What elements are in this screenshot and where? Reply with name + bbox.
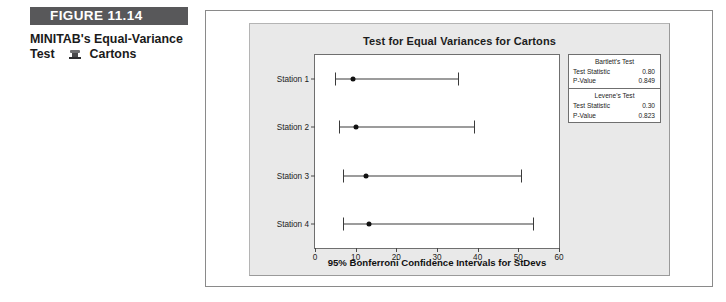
statistics-box: Bartlett's Test Test Statistic 0.80 P-Va… (568, 54, 661, 123)
bartlett-p-value-row: P-Value 0.849 (569, 76, 660, 86)
figure-frame: Test for Equal Variances for Cartons Sta… (205, 10, 713, 287)
confidence-interval-lower-cap (343, 169, 344, 182)
confidence-interval-upper-cap (458, 73, 459, 86)
x-tick-mark (559, 248, 560, 252)
degraded-glyph-icon (69, 49, 81, 59)
x-tick-mark (518, 248, 519, 252)
stdev-point-marker (367, 221, 372, 226)
confidence-interval-upper-cap (521, 169, 522, 182)
y-tick-mark (311, 223, 315, 224)
x-tick-mark (356, 248, 357, 252)
stdev-point-marker (350, 77, 355, 82)
confidence-interval-line (343, 175, 521, 176)
figure-caption-line-2-prefix: Test (30, 47, 55, 61)
x-tick-mark (315, 248, 316, 252)
y-tick-label: Station 3 (277, 171, 309, 180)
figure-caption-block: FIGURE 11.14 MINITAB's Equal-Variance Te… (30, 7, 195, 62)
chart-title: Test for Equal Variances for Cartons (250, 35, 669, 47)
x-tick-mark (396, 248, 397, 252)
plot-area: Station 1Station 2Station 3Station 40102… (314, 54, 560, 249)
figure-caption-line-2-suffix: Cartons (90, 47, 137, 61)
y-tick-mark (311, 79, 315, 80)
levene-p-value-row: P-Value 0.823 (569, 110, 660, 120)
confidence-interval-lower-cap (335, 73, 336, 86)
bartlett-test-statistic-value: 0.80 (642, 68, 655, 75)
y-tick-label: Station 1 (277, 75, 309, 84)
confidence-interval-upper-cap (533, 217, 534, 230)
confidence-interval-line (343, 223, 533, 224)
x-axis-title: 95% Bonferroni Confidence Intervals for … (314, 257, 560, 268)
levene-test-statistic-value: 0.30 (642, 102, 655, 109)
bartlett-test-block: Bartlett's Test Test Statistic 0.80 P-Va… (569, 55, 660, 88)
figure-number-label: FIGURE 11.14 (50, 8, 143, 23)
bartlett-test-statistic-label: Test Statistic (573, 68, 610, 75)
confidence-interval-lower-cap (343, 217, 344, 230)
minitab-output-panel: Test for Equal Variances for Cartons Sta… (249, 23, 670, 276)
bartlett-p-value-value: 0.849 (638, 77, 655, 84)
levene-test-statistic-label: Test Statistic (573, 102, 610, 109)
x-tick-mark (437, 248, 438, 252)
figure-caption-text: MINITAB's Equal-Variance TestCartons (30, 32, 200, 62)
confidence-interval-line (339, 127, 474, 128)
bartlett-p-value-label: P-Value (573, 77, 596, 84)
y-tick-label: Station 4 (277, 219, 309, 228)
stdev-point-marker (353, 125, 358, 130)
levene-test-title: Levene's Test (569, 89, 660, 101)
figure-header-bar: FIGURE 11.14 (30, 7, 188, 25)
levene-test-block: Levene's Test Test Statistic 0.30 P-Valu… (569, 89, 660, 122)
confidence-interval-lower-cap (339, 121, 340, 134)
bartlett-test-statistic-row: Test Statistic 0.80 (569, 67, 660, 77)
levene-p-value-value: 0.823 (638, 112, 655, 119)
figure-caption-line-1: MINITAB's Equal-Variance (30, 32, 183, 46)
stdev-point-marker (363, 173, 368, 178)
y-tick-mark (311, 127, 315, 128)
levene-p-value-label: P-Value (573, 112, 596, 119)
bartlett-test-title: Bartlett's Test (569, 55, 660, 67)
confidence-interval-upper-cap (474, 121, 475, 134)
y-tick-mark (311, 175, 315, 176)
levene-test-statistic-row: Test Statistic 0.30 (569, 101, 660, 111)
x-tick-mark (478, 248, 479, 252)
y-tick-label: Station 2 (277, 123, 309, 132)
